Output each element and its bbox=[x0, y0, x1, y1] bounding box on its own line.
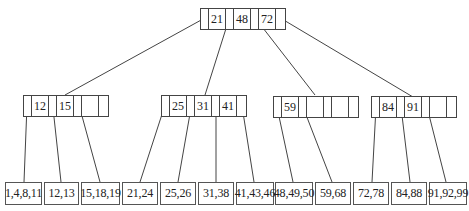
leaf-node: 31,38 bbox=[198, 182, 234, 205]
pointer-cell bbox=[324, 97, 332, 117]
leaf-node: 25,26 bbox=[160, 182, 196, 205]
key-cell: 21 bbox=[209, 9, 226, 29]
pointer-cell bbox=[49, 96, 57, 116]
key-cell bbox=[430, 97, 447, 117]
leaf-node: 72,78 bbox=[353, 182, 389, 205]
pointer-cell bbox=[349, 97, 357, 117]
pointer-cell bbox=[274, 97, 282, 117]
leaf-node: 48,49,50 bbox=[275, 182, 313, 205]
pointer-cell bbox=[187, 96, 195, 116]
pointer-cell bbox=[24, 96, 32, 116]
leaf-node: 21,24 bbox=[122, 182, 158, 205]
pointer-cell bbox=[162, 96, 170, 116]
internal-node-4: 84 91 bbox=[371, 96, 457, 118]
key-cell: 72 bbox=[259, 9, 276, 29]
leaf-node: 12,13 bbox=[44, 182, 79, 205]
pointer-cell bbox=[372, 97, 380, 117]
internal-node-1: 12 15 bbox=[23, 95, 109, 117]
key-cell: 31 bbox=[195, 96, 212, 116]
leaf-node: 84,88 bbox=[391, 182, 427, 205]
pointer-cell bbox=[276, 9, 284, 29]
leaf-node: 59,68 bbox=[315, 182, 351, 205]
pointer-cell bbox=[422, 97, 430, 117]
key-cell bbox=[82, 96, 99, 116]
root-node: 21 48 72 bbox=[200, 8, 286, 30]
pointer-cell bbox=[237, 96, 245, 116]
leaf-node: 91,92,99 bbox=[429, 182, 467, 205]
pointer-cell bbox=[299, 97, 307, 117]
key-cell bbox=[332, 97, 349, 117]
key-cell bbox=[307, 97, 324, 117]
pointer-cell bbox=[99, 96, 107, 116]
pointer-cell bbox=[447, 97, 455, 117]
pointer-cell bbox=[201, 9, 209, 29]
pointer-cell bbox=[212, 96, 220, 116]
key-cell: 41 bbox=[220, 96, 237, 116]
key-cell: 48 bbox=[234, 9, 251, 29]
pointer-cell bbox=[226, 9, 234, 29]
leaf-node: 15,18,19 bbox=[81, 182, 120, 205]
key-cell: 15 bbox=[57, 96, 74, 116]
pointer-cell bbox=[74, 96, 82, 116]
key-cell: 12 bbox=[32, 96, 49, 116]
internal-node-2: 25 31 41 bbox=[161, 95, 247, 117]
key-cell: 59 bbox=[282, 97, 299, 117]
leaf-node: 41,43,46 bbox=[236, 182, 274, 205]
pointer-cell bbox=[397, 97, 405, 117]
key-cell: 84 bbox=[380, 97, 397, 117]
pointer-cell bbox=[251, 9, 259, 29]
internal-node-3: 59 bbox=[273, 96, 359, 118]
leaf-node: 1,4,8,11 bbox=[5, 182, 42, 205]
key-cell: 25 bbox=[170, 96, 187, 116]
key-cell: 91 bbox=[405, 97, 422, 117]
